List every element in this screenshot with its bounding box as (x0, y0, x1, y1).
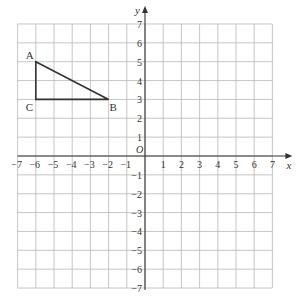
x-axis-label: x (285, 159, 291, 171)
y-axis-label: y (134, 4, 140, 16)
y-tick-label: 4 (137, 76, 142, 87)
y-tick-label: −5 (131, 245, 142, 256)
x-tick-label: 5 (234, 159, 239, 170)
coordinate-grid: −7−6−5−4−3−2−11234567−7−6−5−4−3−2−112345… (0, 0, 303, 305)
y-tick-label: 2 (137, 113, 142, 124)
y-axis-arrow-icon (142, 6, 148, 13)
vertex-label-c: C (26, 101, 33, 113)
axes (18, 6, 293, 290)
origin-label: O (136, 144, 143, 155)
x-tick-label: −5 (48, 159, 59, 170)
y-tick-label: 1 (137, 132, 142, 143)
y-tick-label: 3 (137, 94, 142, 105)
y-tick-label: −1 (131, 170, 142, 181)
x-tick-label: −7 (11, 159, 22, 170)
triangle-abc: ABC (26, 49, 117, 114)
x-tick-label: −4 (66, 159, 77, 170)
x-tick-label: 2 (179, 159, 184, 170)
x-tick-label: 6 (252, 159, 257, 170)
y-tick-label: −3 (131, 208, 142, 219)
x-tick-label: −3 (84, 159, 95, 170)
x-tick-label: −1 (120, 159, 131, 170)
y-tick-label: 6 (137, 38, 142, 49)
vertex-label-b: B (110, 101, 117, 113)
y-tick-label: −6 (131, 264, 142, 275)
x-tick-label: 4 (215, 159, 220, 170)
vertex-label-a: A (26, 49, 34, 61)
y-tick-label: −7 (131, 283, 142, 294)
x-tick-label: 1 (161, 159, 166, 170)
y-tick-label: 5 (137, 57, 142, 68)
y-tick-label: 7 (137, 19, 142, 30)
x-tick-label: −6 (29, 159, 40, 170)
x-tick-label: −2 (102, 159, 113, 170)
y-tick-label: −2 (131, 189, 142, 200)
x-tick-label: 7 (270, 159, 275, 170)
y-tick-label: −4 (131, 226, 142, 237)
x-tick-label: 3 (197, 159, 202, 170)
